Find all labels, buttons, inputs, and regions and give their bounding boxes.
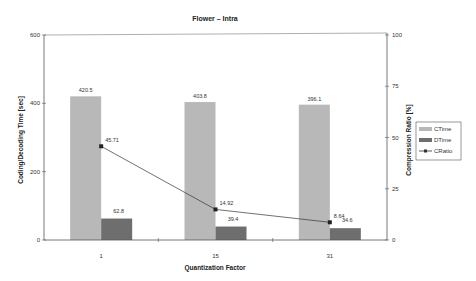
chart-title: Flower – Intra <box>192 15 238 22</box>
bar-ctime <box>70 96 101 240</box>
cratio-label: 14.92 <box>220 200 234 206</box>
y-tick-label: 0 <box>37 237 41 243</box>
top-border <box>44 33 387 35</box>
legend-label-cratio: CRatio <box>434 148 453 154</box>
cratio-label: 8.64 <box>334 213 345 219</box>
y2-tick-label: 0 <box>392 237 396 243</box>
legend-label-dtime: DTime <box>434 137 452 143</box>
left-axis-ticks: 0200400600 <box>30 32 46 243</box>
legend: CTime DTime CRatio <box>416 122 461 160</box>
y-tick-label: 600 <box>30 32 41 38</box>
bar-dtime-label: 39.4 <box>228 216 239 222</box>
y2-tick-label: 75 <box>392 83 399 89</box>
bar-ctime <box>299 105 330 240</box>
x-tick-label: 1 <box>99 253 103 259</box>
cratio-marker <box>99 144 103 148</box>
y2-tick-label: 50 <box>392 135 399 141</box>
legend-swatch-ctime <box>419 127 432 131</box>
bar-dtime-label: 62.8 <box>113 208 124 214</box>
legend-label-ctime: CTime <box>434 126 452 132</box>
bars-group: 420.562.8403.839.4396.134.6 <box>70 87 361 240</box>
x-tick-label: 31 <box>326 253 333 259</box>
y-tick-label: 200 <box>30 169 41 175</box>
x-tick-label: 15 <box>212 253 219 259</box>
bar-ctime-label: 403.8 <box>193 93 207 99</box>
bar-dtime <box>101 219 132 240</box>
y2-tick-label: 100 <box>392 32 403 38</box>
cratio-label: 45.71 <box>105 137 119 143</box>
cratio-marker <box>328 220 332 224</box>
x-axis-ticks: 11531 <box>99 238 333 259</box>
y-axis-label: Coding/Decoding Time [sec] <box>17 96 25 184</box>
bar-dtime <box>216 227 247 240</box>
cratio-marker <box>214 207 218 211</box>
right-axis-ticks: 0255075100 <box>385 32 403 243</box>
legend-swatch-dtime <box>419 138 432 142</box>
chart: Flower – Intra 420.562.8403.839.4396.134… <box>0 0 476 281</box>
bar-ctime-label: 420.5 <box>79 87 93 93</box>
y-tick-label: 400 <box>30 100 41 106</box>
bar-dtime <box>330 228 361 240</box>
y2-tick-label: 25 <box>392 186 399 192</box>
x-axis-label: Quantization Factor <box>184 264 246 272</box>
bar-ctime <box>185 102 216 240</box>
y2-axis-label: Compression Ratio [%] <box>405 104 413 176</box>
legend-swatch-cratio-marker <box>424 150 427 153</box>
bar-ctime-label: 396.1 <box>307 96 321 102</box>
